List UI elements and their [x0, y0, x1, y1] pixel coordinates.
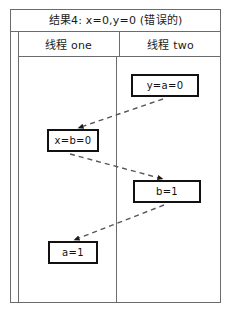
- column-header-thread-one: 线程 one: [18, 32, 120, 56]
- column-header-thread-two: 线程 two: [120, 32, 221, 56]
- event-box-x-b-0-label: x=b=0: [55, 135, 92, 146]
- thread-column-headers: 线程 one 线程 two: [18, 32, 221, 57]
- event-box-a-1[interactable]: a=1: [48, 241, 98, 264]
- diagram-title-bar: 结果4: x=0,y=0 (错误的): [10, 9, 221, 32]
- event-box-a-1-label: a=1: [62, 247, 84, 258]
- page-title: 结果4: x=0,y=0 (错误的): [49, 15, 183, 26]
- event-box-b-1[interactable]: b=1: [133, 180, 201, 203]
- thread-interleaving-diagram: 结果4: x=0,y=0 (错误的) 线程 one 线程 two y=a=0 x…: [0, 0, 231, 313]
- left-gutter-divider: [18, 32, 19, 303]
- event-box-y-a-0[interactable]: y=a=0: [131, 74, 199, 97]
- thread-column-divider: [116, 57, 117, 303]
- column-header-thread-two-label: 线程 two: [147, 36, 194, 52]
- column-header-thread-one-label: 线程 one: [45, 36, 92, 52]
- event-box-b-1-label: b=1: [156, 186, 178, 197]
- event-box-y-a-0-label: y=a=0: [147, 80, 184, 91]
- event-box-x-b-0[interactable]: x=b=0: [47, 129, 99, 152]
